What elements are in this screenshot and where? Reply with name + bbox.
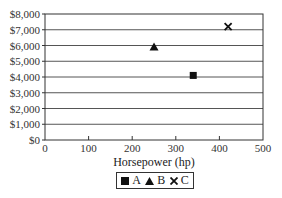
data-point-b <box>150 43 159 51</box>
legend: A B C <box>116 172 194 189</box>
y-tick-label: $6,000 <box>10 40 41 52</box>
y-tick-label: $8,000 <box>10 8 41 20</box>
legend-item-b: B <box>145 173 165 188</box>
x-tick-label: 200 <box>124 142 141 154</box>
legend-item-a: A <box>121 173 141 188</box>
square-marker-icon <box>121 177 129 185</box>
x-axis-title: Horsepower (hp) <box>113 155 195 169</box>
y-tick-label: $5,000 <box>10 55 41 67</box>
legend-label: B <box>157 173 165 188</box>
y-tick-label: $7,000 <box>10 24 41 36</box>
legend-label: C <box>181 173 189 188</box>
legend-label: A <box>132 173 141 188</box>
x-marker-icon <box>170 177 178 185</box>
legend-item-c: C <box>170 173 189 188</box>
y-tick-label: $1,000 <box>10 118 41 130</box>
triangle-marker-icon <box>145 177 154 185</box>
x-tick-label: 400 <box>211 142 228 154</box>
x-axis-ticks: 0100200300400500 <box>42 136 272 154</box>
data-point-a <box>190 72 197 79</box>
scatter-chart: 0100200300400500 $0$1,000$2,000$3,000$4,… <box>0 0 282 170</box>
y-tick-label: $2,000 <box>10 103 41 115</box>
y-tick-label: $3,000 <box>10 87 41 99</box>
data-point-c <box>225 23 232 30</box>
y-tick-label: $0 <box>29 134 41 146</box>
y-tick-label: $4,000 <box>10 71 41 83</box>
x-tick-label: 300 <box>168 142 185 154</box>
x-tick-label: 500 <box>255 142 272 154</box>
x-tick-label: 0 <box>42 142 48 154</box>
x-tick-label: 100 <box>80 142 97 154</box>
data-points <box>150 23 232 79</box>
y-axis-ticks: $0$1,000$2,000$3,000$4,000$5,000$6,000$7… <box>10 8 45 146</box>
